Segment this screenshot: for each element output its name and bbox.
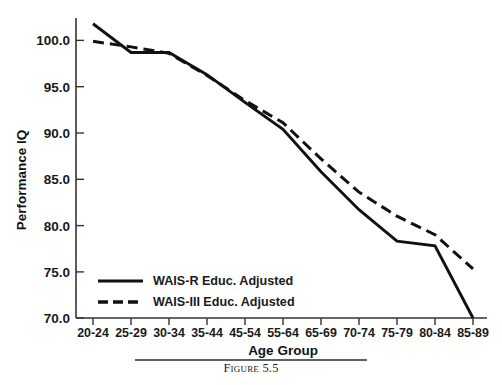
chart-legend: WAIS-R Educ. Adjusted WAIS-III Educ. Adj…: [98, 274, 295, 309]
y-axis-ticks: [76, 40, 84, 318]
x-tick-label-8: 75-79: [381, 326, 413, 340]
y-axis-tick-labels: 100.0 95.0 90.0 85.0 80.0 75.0 70.0: [36, 33, 70, 326]
y-tick-label-95: 95.0: [44, 80, 70, 95]
x-tick-label-0: 20-24: [77, 326, 109, 340]
x-tick-label-6: 65-69: [305, 326, 337, 340]
y-tick-label-85: 85.0: [44, 172, 70, 187]
y-tick-label-90: 90.0: [44, 126, 70, 141]
performance-iq-line-chart: Performance IQ 100.0 95.0 90.0 85.0 80.0…: [0, 0, 502, 385]
x-axis-ticks: [93, 318, 473, 325]
x-tick-label-9: 80-84: [419, 326, 451, 340]
y-tick-label-70: 70.0: [44, 311, 70, 326]
y-tick-label-100: 100.0: [36, 33, 70, 48]
y-tick-label-80: 80.0: [44, 219, 70, 234]
x-tick-label-5: 55-64: [267, 326, 299, 340]
legend-label-wais-iii: WAIS-III Educ. Adjusted: [153, 295, 295, 309]
legend-label-wais-r: WAIS-R Educ. Adjusted: [153, 274, 293, 288]
x-tick-label-7: 70-74: [343, 326, 375, 340]
x-tick-label-3: 35-44: [191, 326, 223, 340]
figure-caption-word: Figure: [223, 361, 259, 375]
x-tick-label-10: 85-89: [457, 326, 489, 340]
x-axis-tick-labels: 20-24 25-29 30-34 35-44 45-54 55-64 65-6…: [77, 326, 489, 340]
x-axis-title: Age Group: [248, 343, 318, 358]
x-tick-label-4: 45-54: [229, 326, 261, 340]
series-line-wais-iii: [93, 41, 473, 269]
y-axis-title-group: Performance IQ: [14, 130, 29, 231]
figure-container: Performance IQ 100.0 95.0 90.0 85.0 80.0…: [0, 0, 502, 385]
figure-caption-number: 5.5: [262, 361, 278, 375]
y-axis-title: Performance IQ: [14, 130, 29, 231]
figure-caption: Figure 5.5: [0, 361, 502, 376]
x-tick-label-1: 25-29: [115, 326, 147, 340]
y-tick-label-75: 75.0: [44, 265, 70, 280]
x-tick-label-2: 30-34: [153, 326, 185, 340]
